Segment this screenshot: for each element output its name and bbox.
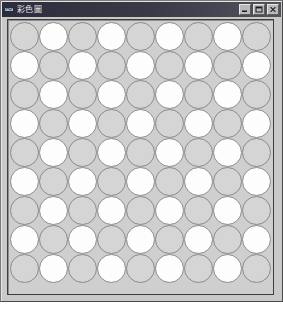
maximize-button[interactable] — [253, 4, 265, 15]
grid-cell[interactable] — [68, 225, 97, 254]
grid-cell[interactable] — [126, 109, 155, 138]
grid-cell[interactable] — [184, 138, 213, 167]
grid-cell[interactable] — [39, 109, 68, 138]
grid-cell[interactable] — [68, 167, 97, 196]
grid-cell[interactable] — [97, 80, 126, 109]
circle-shape — [97, 196, 126, 225]
grid-cell[interactable] — [213, 22, 242, 51]
grid-cell[interactable] — [97, 167, 126, 196]
grid-cell[interactable] — [39, 225, 68, 254]
circle-shape — [242, 225, 271, 254]
grid-cell[interactable] — [213, 167, 242, 196]
grid-cell[interactable] — [126, 51, 155, 80]
grid-cell[interactable] — [155, 225, 184, 254]
grid-cell[interactable] — [39, 196, 68, 225]
grid-cell[interactable] — [155, 254, 184, 283]
grid-cell[interactable] — [97, 196, 126, 225]
window-controls — [239, 4, 280, 15]
grid-cell[interactable] — [126, 225, 155, 254]
grid-cell[interactable] — [10, 109, 39, 138]
maximize-icon — [255, 6, 263, 13]
circle-shape — [126, 196, 155, 225]
grid-cell[interactable] — [155, 196, 184, 225]
grid-cell[interactable] — [242, 138, 271, 167]
grid-cell[interactable] — [213, 254, 242, 283]
grid-cell[interactable] — [184, 109, 213, 138]
grid-cell[interactable] — [184, 196, 213, 225]
circle-grid[interactable] — [10, 22, 271, 283]
grid-cell[interactable] — [39, 80, 68, 109]
grid-cell[interactable] — [213, 109, 242, 138]
grid-cell[interactable] — [97, 22, 126, 51]
grid-cell[interactable] — [213, 80, 242, 109]
grid-cell[interactable] — [213, 225, 242, 254]
grid-cell[interactable] — [242, 22, 271, 51]
circle-shape — [10, 51, 39, 80]
grid-cell[interactable] — [184, 225, 213, 254]
grid-cell[interactable] — [184, 80, 213, 109]
grid-cell[interactable] — [242, 80, 271, 109]
grid-cell[interactable] — [39, 167, 68, 196]
grid-cell[interactable] — [126, 254, 155, 283]
grid-cell[interactable] — [68, 51, 97, 80]
grid-cell[interactable] — [97, 225, 126, 254]
grid-cell[interactable] — [184, 22, 213, 51]
grid-cell[interactable] — [242, 167, 271, 196]
grid-cell[interactable] — [184, 51, 213, 80]
grid-cell[interactable] — [68, 254, 97, 283]
close-button[interactable] — [267, 4, 279, 15]
grid-cell[interactable] — [242, 196, 271, 225]
circle-shape — [68, 196, 97, 225]
grid-cell[interactable] — [39, 138, 68, 167]
grid-cell[interactable] — [242, 254, 271, 283]
grid-cell[interactable] — [126, 167, 155, 196]
grid-cell[interactable] — [68, 196, 97, 225]
grid-cell[interactable] — [213, 138, 242, 167]
grid-cell[interactable] — [155, 167, 184, 196]
grid-cell[interactable] — [68, 80, 97, 109]
grid-cell[interactable] — [155, 80, 184, 109]
minimize-button[interactable] — [239, 4, 251, 15]
grid-cell[interactable] — [10, 167, 39, 196]
grid-cell[interactable] — [155, 22, 184, 51]
grid-cell[interactable] — [213, 51, 242, 80]
circle-shape — [126, 51, 155, 80]
grid-cell[interactable] — [39, 51, 68, 80]
grid-cell[interactable] — [39, 254, 68, 283]
circle-shape — [184, 51, 213, 80]
circle-shape — [10, 254, 39, 283]
grid-cell[interactable] — [68, 138, 97, 167]
grid-cell[interactable] — [10, 225, 39, 254]
grid-cell[interactable] — [10, 22, 39, 51]
circle-shape — [213, 22, 242, 51]
grid-cell[interactable] — [10, 196, 39, 225]
grid-cell[interactable] — [242, 51, 271, 80]
grid-cell[interactable] — [97, 254, 126, 283]
circle-shape — [242, 80, 271, 109]
grid-cell[interactable] — [10, 80, 39, 109]
grid-cell[interactable] — [126, 138, 155, 167]
grid-cell[interactable] — [242, 109, 271, 138]
title-bar[interactable]: 彩色圖 — [2, 2, 281, 17]
grid-cell[interactable] — [97, 51, 126, 80]
circle-shape — [242, 196, 271, 225]
grid-cell[interactable] — [242, 225, 271, 254]
grid-cell[interactable] — [10, 254, 39, 283]
grid-cell[interactable] — [97, 109, 126, 138]
grid-cell[interactable] — [39, 22, 68, 51]
grid-cell[interactable] — [10, 51, 39, 80]
grid-cell[interactable] — [68, 109, 97, 138]
grid-cell[interactable] — [155, 138, 184, 167]
grid-cell[interactable] — [97, 138, 126, 167]
grid-cell[interactable] — [184, 167, 213, 196]
grid-cell[interactable] — [10, 138, 39, 167]
grid-cell[interactable] — [126, 80, 155, 109]
grid-cell[interactable] — [155, 51, 184, 80]
grid-cell[interactable] — [155, 109, 184, 138]
grid-cell[interactable] — [68, 22, 97, 51]
grid-cell[interactable] — [184, 254, 213, 283]
grid-cell[interactable] — [126, 196, 155, 225]
grid-cell[interactable] — [126, 22, 155, 51]
grid-cell[interactable] — [213, 196, 242, 225]
circle-shape — [68, 254, 97, 283]
